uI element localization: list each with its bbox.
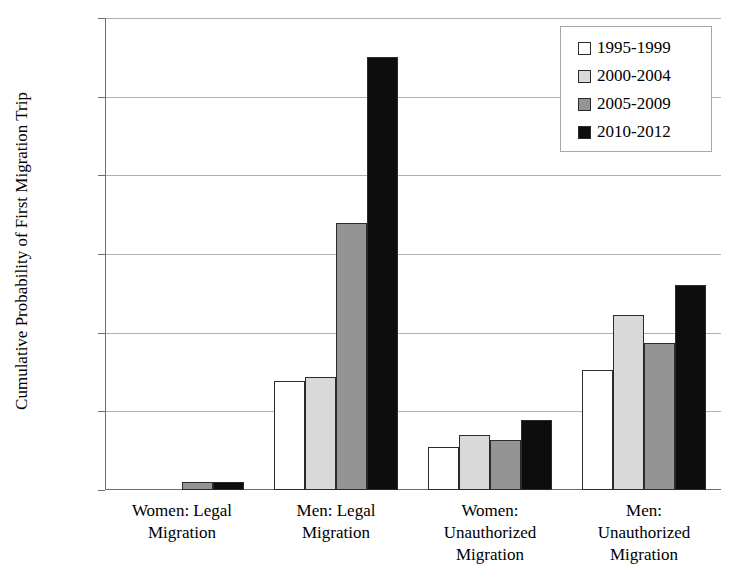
bar: [459, 435, 490, 490]
bar: [305, 377, 336, 490]
x-axis-category-label: Women: LegalMigration: [105, 500, 259, 544]
bar: [490, 440, 521, 490]
x-axis-category-label: Women:UnauthorizedMigration: [413, 500, 567, 565]
legend-swatch: [578, 42, 591, 55]
legend-label: 1995-1999: [597, 38, 671, 58]
bar: [582, 370, 613, 490]
y-axis-tick-mark: [98, 97, 105, 98]
bar: [213, 482, 244, 490]
bar: [521, 420, 552, 490]
bar-chart: Cumulative Probability of First Migratio…: [0, 0, 737, 584]
x-axis-category-label-line: Unauthorized: [413, 522, 567, 544]
x-axis-category-label: Men:UnauthorizedMigration: [567, 500, 721, 565]
y-axis-line: [105, 18, 106, 490]
x-axis-category-label-line: Unauthorized: [567, 522, 721, 544]
bar: [644, 343, 675, 491]
y-axis-tick-mark: [98, 411, 105, 412]
legend-swatch: [578, 70, 591, 83]
legend-item: 2000-2004: [561, 62, 711, 90]
bar: [675, 285, 706, 490]
legend-swatch: [578, 98, 591, 111]
x-axis-category-label-line: Migration: [567, 544, 721, 566]
legend-label: 2000-2004: [597, 66, 671, 86]
legend-item: 2005-2009: [561, 90, 711, 118]
bar: [613, 315, 644, 490]
bar: [367, 57, 398, 490]
x-axis-category-label-line: Migration: [105, 522, 259, 544]
y-axis-title: Cumulative Probability of First Migratio…: [12, 11, 32, 491]
y-axis-tick-mark: [98, 333, 105, 334]
legend-item: 1995-1999: [561, 34, 711, 62]
bar: [182, 482, 213, 490]
x-axis-category-label-line: Women: Legal: [105, 500, 259, 522]
bar: [428, 447, 459, 490]
legend-item: 2010-2012: [561, 118, 711, 146]
bar: [336, 223, 367, 490]
legend-label: 2005-2009: [597, 94, 671, 114]
gridline: [105, 254, 721, 255]
bar: [274, 381, 305, 490]
legend: 1995-19992000-20042005-20092010-2012: [560, 26, 712, 152]
legend-label: 2010-2012: [597, 122, 671, 142]
gridline: [105, 175, 721, 176]
x-axis-category-label: Men: LegalMigration: [259, 500, 413, 544]
x-axis-category-label-line: Migration: [259, 522, 413, 544]
x-axis-category-label-line: Men:: [567, 500, 721, 522]
x-axis-category-label-line: Men: Legal: [259, 500, 413, 522]
y-axis-tick-mark: [98, 18, 105, 19]
gridline: [105, 18, 721, 19]
y-axis-tick-mark: [98, 254, 105, 255]
x-axis-category-label-line: Migration: [413, 544, 567, 566]
y-axis-tick-mark: [98, 175, 105, 176]
y-axis-tick-mark: [98, 490, 105, 491]
x-axis-category-label-line: Women:: [413, 500, 567, 522]
legend-swatch: [578, 126, 591, 139]
